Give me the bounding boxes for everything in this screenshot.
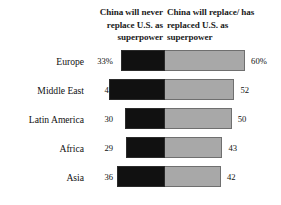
region-label: Latin America	[2, 113, 84, 124]
region-label: Asia	[2, 171, 84, 182]
chart-rows: Europe33%60%Middle East4252Latin America…	[0, 50, 281, 195]
bar-segment-never-replace	[109, 79, 165, 100]
region-label: Europe	[2, 55, 84, 66]
bar-segment-will-replace	[165, 50, 245, 71]
value-will-replace: 50	[238, 114, 278, 124]
chart-row: Asia3642	[0, 166, 281, 187]
bar-segment-never-replace	[121, 50, 165, 71]
chart-row: Middle East4252	[0, 79, 281, 100]
bar-segment-never-replace	[126, 137, 165, 158]
legend-label-never-replace: China will never replace U.S. as superpo…	[76, 6, 163, 44]
value-will-replace: 52	[240, 85, 280, 95]
chart-row: Europe33%60%	[0, 50, 281, 71]
region-label: Africa	[2, 142, 84, 153]
bar-segment-never-replace	[117, 166, 165, 187]
bar-segment-never-replace	[125, 108, 165, 129]
bar-segment-will-replace	[165, 166, 221, 187]
value-never-replace: 29	[84, 143, 113, 153]
chart-legend-headers: China will never replace U.S. as superpo…	[0, 6, 281, 48]
value-never-replace: 30	[84, 114, 113, 124]
superpower-bar-chart: China will never replace U.S. as superpo…	[0, 0, 281, 205]
legend-label-will-replace: China will replace/ has replaced U.S. as…	[167, 6, 275, 44]
bar-segment-will-replace	[165, 108, 232, 129]
chart-row: Africa2943	[0, 137, 281, 158]
value-never-replace: 33%	[84, 56, 113, 66]
value-will-replace: 43	[228, 143, 268, 153]
chart-row: Latin America3050	[0, 108, 281, 129]
value-will-replace: 60%	[251, 56, 281, 66]
bar-segment-will-replace	[165, 79, 234, 100]
bar-segment-will-replace	[165, 137, 222, 158]
value-never-replace: 36	[84, 172, 113, 182]
region-label: Middle East	[2, 84, 84, 95]
value-will-replace: 42	[227, 172, 267, 182]
